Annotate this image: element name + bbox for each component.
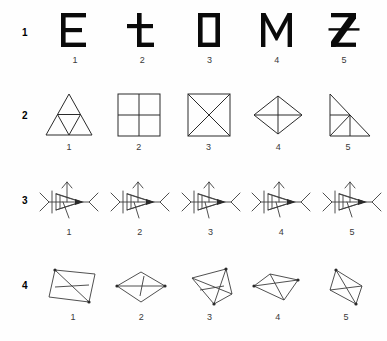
arrow-figure-1-icon	[36, 170, 102, 226]
item-number: 4	[274, 56, 279, 65]
item-number: 1	[72, 56, 77, 65]
arrow-figure-3-svg	[178, 179, 244, 225]
item-number: 4	[275, 313, 280, 322]
item-row3-5[interactable]: 5	[319, 170, 385, 237]
square-with-x-icon	[184, 85, 234, 141]
row-label-2: 2	[22, 111, 28, 121]
row-4-items: 1 2	[40, 255, 379, 340]
arrow-figure-2-svg	[107, 179, 173, 225]
letter-t-icon	[125, 0, 159, 54]
item-row3-4[interactable]: 4	[248, 170, 314, 237]
figure-sheet: 1 1	[0, 0, 387, 341]
rhombus-3-icon	[180, 255, 240, 311]
item-row3-1[interactable]: 1	[36, 170, 102, 237]
row-2: 2 1	[0, 85, 387, 170]
item-number: 5	[341, 56, 346, 65]
item-row2-2[interactable]: 2	[106, 85, 172, 152]
row-label-3: 3	[22, 196, 28, 206]
item-row2-1[interactable]: 1	[36, 85, 102, 152]
item-number: 3	[207, 56, 212, 65]
item-number: 5	[349, 228, 354, 237]
item-number: 2	[140, 56, 145, 65]
right-triangle-subdivided-svg	[322, 90, 374, 140]
arrow-figure-3-icon	[178, 170, 244, 226]
row-4: 4 1	[0, 255, 387, 340]
letter-m-svg	[258, 9, 296, 51]
item-row1-5[interactable]: 5	[311, 0, 377, 65]
row-1: 1 1	[0, 0, 387, 85]
rhombus-3-svg	[180, 264, 240, 310]
item-row1-4[interactable]: 4	[244, 0, 310, 65]
item-number: 5	[345, 143, 350, 152]
item-row4-4[interactable]: 4	[245, 255, 311, 322]
item-row2-5[interactable]: 5	[315, 85, 381, 152]
row-label-4: 4	[22, 281, 28, 291]
rhombus-2-icon	[111, 255, 171, 311]
item-number: 2	[139, 313, 144, 322]
letter-e-icon	[58, 0, 92, 54]
row-label-1: 1	[22, 28, 28, 38]
item-row1-1[interactable]: 1	[42, 0, 108, 65]
parallelogram-1-svg	[43, 264, 103, 310]
row-3: 3	[0, 170, 387, 255]
letter-z-struck-svg	[327, 9, 361, 51]
letter-t-svg	[125, 9, 159, 51]
subdivided-triangle-svg	[42, 90, 96, 140]
item-row1-2[interactable]: 2	[109, 0, 175, 65]
parallelogram-1-icon	[43, 255, 103, 311]
item-number: 5	[343, 313, 348, 322]
diamond-with-cross-svg	[250, 90, 306, 140]
letter-z-struck-icon	[327, 0, 361, 54]
row-2-items: 1 2	[36, 85, 381, 170]
item-row3-2[interactable]: 2	[107, 170, 173, 237]
arrow-figure-4-svg	[248, 179, 314, 225]
right-triangle-subdivided-icon	[322, 85, 374, 141]
item-number: 3	[207, 313, 212, 322]
quartered-square-icon	[114, 85, 164, 141]
item-row2-4[interactable]: 4	[245, 85, 311, 152]
item-row4-5[interactable]: 5	[313, 255, 379, 322]
arrow-figure-2-icon	[107, 170, 173, 226]
rhombus-5-svg	[316, 264, 376, 310]
item-row4-1[interactable]: 1	[40, 255, 106, 322]
subdivided-triangle-icon	[42, 85, 96, 141]
arrow-figure-5-icon	[319, 170, 385, 226]
item-row4-2[interactable]: 2	[108, 255, 174, 322]
row-3-items: 1	[36, 170, 385, 255]
item-number: 4	[279, 228, 284, 237]
rhombus-4-svg	[248, 264, 308, 310]
item-number: 1	[66, 143, 71, 152]
diamond-with-cross-icon	[250, 85, 306, 141]
arrow-figure-4-icon	[248, 170, 314, 226]
rhombus-4-icon	[248, 255, 308, 311]
item-number: 2	[136, 143, 141, 152]
letter-d-square-svg	[193, 9, 227, 51]
row-1-items: 1 2	[42, 0, 377, 85]
item-row1-3[interactable]: 3	[177, 0, 243, 65]
square-with-x-svg	[184, 90, 234, 140]
quartered-square-svg	[114, 90, 164, 140]
item-number: 4	[276, 143, 281, 152]
item-number: 1	[70, 313, 75, 322]
item-number: 3	[206, 143, 211, 152]
item-row3-3[interactable]: 3	[178, 170, 244, 237]
rhombus-5-icon	[316, 255, 376, 311]
rhombus-2-svg	[111, 264, 171, 310]
letter-d-square-icon	[193, 0, 227, 54]
item-number: 3	[208, 228, 213, 237]
letter-e-svg	[58, 9, 92, 51]
item-number: 2	[137, 228, 142, 237]
item-row4-3[interactable]: 3	[177, 255, 243, 322]
item-row2-3[interactable]: 3	[176, 85, 242, 152]
item-number: 1	[66, 228, 71, 237]
arrow-figure-1-svg	[36, 179, 102, 225]
letter-m-icon	[258, 0, 296, 54]
arrow-figure-5-svg	[319, 179, 385, 225]
